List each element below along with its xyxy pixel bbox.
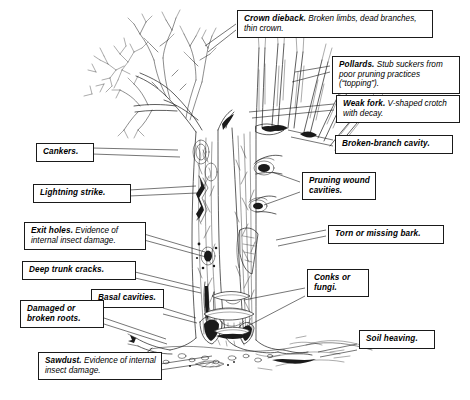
callout-torn-or-missing-bark-heading: Torn or missing bark.: [335, 229, 421, 238]
callout-deep-trunk-cracks-heading: Deep trunk cracks.: [29, 265, 104, 274]
callout-pruning-wound-cavities[interactable]: Pruning wound cavities.: [302, 172, 376, 200]
callout-weak-fork[interactable]: Weak fork. V-shaped crotch with decay.: [336, 95, 460, 123]
callout-lightning-strike-heading: Lightning strike.: [40, 188, 105, 197]
callout-pollards-heading: Pollards.: [339, 60, 374, 69]
callout-weak-fork-heading: Weak fork.: [343, 99, 385, 108]
callout-crown-dieback-heading: Crown dieback.: [244, 14, 306, 23]
callout-exit-holes[interactable]: Exit holes. Evidence of internal insect …: [24, 222, 146, 250]
callout-deep-trunk-cracks[interactable]: Deep trunk cracks.: [22, 261, 136, 280]
callout-conks-or-fungi-heading: Conks or fungi.: [314, 273, 350, 292]
callout-broken-branch-cavity[interactable]: Broken-branch cavity.: [335, 135, 453, 154]
callout-damaged-or-broken-roots[interactable]: Damaged or broken roots.: [20, 300, 104, 328]
callout-broken-branch-cavity-heading: Broken-branch cavity.: [342, 139, 430, 148]
callout-sawdust[interactable]: Sawdust. Evidence of internal insect dam…: [38, 352, 162, 380]
callout-exit-holes-heading: Exit holes.: [31, 226, 73, 235]
callout-sawdust-heading: Sawdust.: [45, 356, 82, 365]
callout-crown-dieback[interactable]: Crown dieback. Broken limbs, dead branch…: [237, 10, 433, 38]
callout-damaged-or-broken-roots-heading: Damaged or broken roots.: [27, 304, 81, 323]
callout-basal-cavities-heading: Basal cavities.: [98, 293, 156, 302]
tree-hazard-diagram: .ln { fill:none; stroke:#1a1a1a; stroke-…: [0, 0, 470, 400]
callout-pruning-wound-cavities-heading: Pruning wound cavities.: [309, 176, 370, 195]
callout-pollards[interactable]: Pollards. Stub suckers from poor pruning…: [332, 56, 460, 94]
callout-soil-heaving-heading: Soil heaving.: [366, 334, 418, 343]
callout-cankers-heading: Cankers.: [43, 147, 78, 156]
callout-cankers[interactable]: Cankers.: [36, 143, 94, 162]
callout-lightning-strike[interactable]: Lightning strike.: [33, 184, 131, 203]
callout-conks-or-fungi[interactable]: Conks or fungi.: [307, 269, 369, 297]
callout-soil-heaving[interactable]: Soil heaving.: [359, 330, 435, 349]
callout-torn-or-missing-bark[interactable]: Torn or missing bark.: [328, 225, 444, 244]
